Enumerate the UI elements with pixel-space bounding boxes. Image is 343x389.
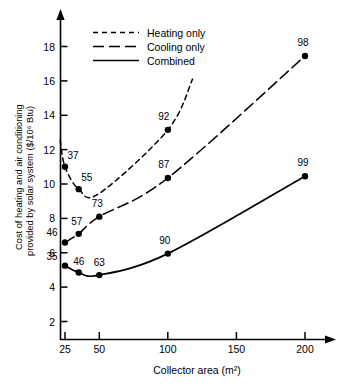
data-point-cooling-only-1[interactable]	[76, 231, 82, 237]
data-point-heating-only-2[interactable]	[165, 127, 171, 133]
point-label-combined-63: 63	[94, 257, 106, 268]
point-label-heating-only-55: 55	[81, 172, 93, 183]
point-label-cooling-only-98: 98	[297, 37, 309, 48]
data-point-heating-only-1[interactable]	[76, 186, 82, 192]
x-tick-label-200: 200	[296, 343, 314, 355]
data-point-cooling-only-4[interactable]	[302, 53, 308, 59]
data-point-combined-2[interactable]	[96, 272, 102, 278]
point-label-combined-99: 99	[297, 157, 309, 168]
chart-canvas: 18 16 14 12 10 8	[0, 0, 343, 389]
x-tick-label-25: 25	[59, 343, 71, 355]
y-tick-label-10: 10	[43, 178, 55, 190]
x-tick-label-150: 150	[228, 343, 246, 355]
legend-label-combined: Combined	[147, 55, 195, 67]
y-tick-label-16: 16	[43, 75, 55, 87]
data-point-cooling-only-3[interactable]	[165, 175, 171, 181]
point-label-combined-35: 35	[46, 251, 58, 262]
point-label-cooling-only-87: 87	[158, 159, 170, 170]
y-tick-label-2: 2	[49, 316, 55, 328]
point-label-cooling-only-57: 57	[71, 216, 83, 227]
y-axis-title-line2: provided by solar system ($/10⁶ Btu)	[25, 106, 35, 256]
legend-label-heating-only: Heating only	[147, 27, 206, 39]
y-tick-label-4: 4	[49, 281, 55, 293]
point-label-cooling-only-46: 46	[46, 227, 58, 238]
x-tick-label-100: 100	[159, 343, 177, 355]
x-tick-label-50: 50	[93, 343, 105, 355]
point-label-cooling-only-73: 73	[92, 198, 104, 209]
data-point-heating-only-0[interactable]	[62, 164, 68, 170]
data-point-combined-3[interactable]	[165, 250, 171, 256]
data-point-combined-0[interactable]	[62, 262, 68, 268]
y-tick-label-8: 8	[49, 212, 55, 224]
data-point-combined-1[interactable]	[76, 269, 82, 275]
point-label-heating-only-92: 92	[158, 111, 170, 122]
y-axis-title-line1: Cost of heating and air conditioning	[14, 104, 24, 250]
point-label-heating-only-37: 37	[67, 150, 79, 161]
y-tick-label-18: 18	[43, 41, 55, 53]
y-tick-label-12: 12	[43, 144, 55, 156]
figure-solar-cost-chart: 18 16 14 12 10 8	[0, 0, 343, 389]
y-tick-label-14: 14	[43, 109, 55, 121]
data-point-combined-4[interactable]	[302, 173, 308, 179]
point-label-combined-46: 46	[73, 256, 85, 267]
point-label-combined-90: 90	[159, 235, 171, 246]
data-point-cooling-only-2[interactable]	[96, 213, 102, 219]
data-point-cooling-only-0[interactable]	[62, 239, 68, 245]
legend-label-cooling-only: Cooling only	[147, 41, 206, 53]
x-axis-title: Collector area (m²)	[153, 364, 241, 376]
